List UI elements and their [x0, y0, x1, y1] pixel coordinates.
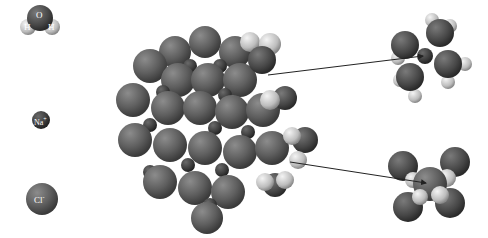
hydrogen-label-right: H: [48, 23, 55, 32]
diagram-canvas: [0, 0, 488, 238]
sodium-symbol: Na: [34, 118, 43, 127]
nacl-crystal-lattice: [116, 26, 318, 234]
sodium-label: Na+: [34, 116, 47, 127]
sodium-charge: +: [43, 116, 46, 122]
chloride-label: Cl-: [34, 194, 45, 205]
oxygen-label: O: [36, 11, 43, 20]
hydrated-chloride-ion: [388, 147, 470, 222]
hydrogen-label-left: H: [24, 23, 31, 32]
chloride-symbol: Cl: [34, 195, 43, 205]
chloride-charge: -: [43, 194, 45, 200]
